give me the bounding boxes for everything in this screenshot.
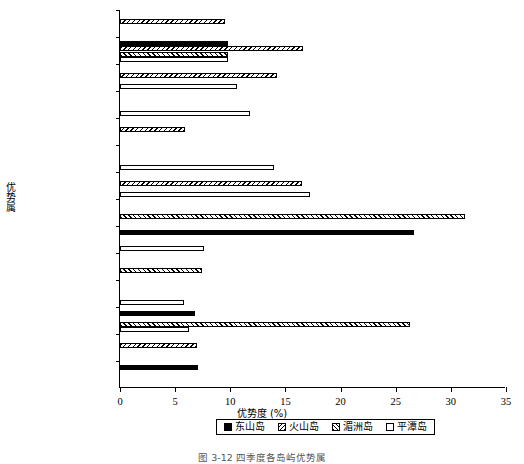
bar-group (120, 91, 505, 118)
x-axis-title: 优势度 (%) (0, 405, 524, 420)
y-tick (116, 145, 120, 146)
y-tick (116, 361, 120, 362)
bar-平潭岛-Rhynchonema (120, 84, 237, 89)
bar-平潭岛-Microlaimus (120, 111, 250, 116)
bar-火山岛-Rhynchonema (120, 73, 277, 78)
legend-item-湄洲岛: 湄洲岛 (332, 422, 373, 432)
y-tick (116, 307, 120, 308)
y-tick (116, 64, 120, 65)
x-tick (506, 387, 507, 392)
bar-group (120, 226, 505, 253)
bar-group (120, 145, 505, 172)
bar-group (120, 280, 505, 307)
bar-湄洲岛-Oncholaimus (120, 322, 410, 327)
bar-平潭岛-Metachromadora (120, 192, 310, 197)
bar-湄洲岛-Tripyloides (120, 268, 202, 273)
bar-平潭岛-Oncholaimus (120, 327, 189, 332)
bar-group (120, 253, 505, 280)
y-tick (116, 334, 120, 335)
bar-group (120, 199, 505, 226)
y-tick (116, 172, 120, 173)
bar-火山岛-Pheronous (120, 343, 197, 348)
legend-swatch-icon (224, 423, 232, 431)
bar-东山岛-Oncholaimus (120, 311, 195, 316)
bar-group (120, 10, 505, 37)
legend-item-平潭岛: 平潭岛 (386, 422, 427, 432)
bar-平潭岛-Theristus (120, 57, 228, 62)
x-tick (285, 387, 286, 392)
x-tick (230, 387, 231, 392)
legend-item-火山岛: 火山岛 (278, 422, 319, 432)
bar-火山岛-Xyala (120, 19, 225, 24)
y-tick (116, 10, 120, 11)
bar-group (120, 37, 505, 64)
legend-item-东山岛: 东山岛 (224, 422, 265, 432)
bar-平潭岛-Lauratonema (120, 246, 204, 251)
legend-label: 湄洲岛 (343, 422, 373, 432)
legend-swatch-icon (386, 423, 394, 431)
legend-label: 火山岛 (289, 422, 319, 432)
chart-legend: 东山岛火山岛湄洲岛平潭岛 (216, 419, 435, 435)
legend-label: 平潭岛 (397, 422, 427, 432)
bar-东山岛-Conilia (120, 365, 198, 370)
bar-group (120, 334, 505, 361)
bar-火山岛-Theristus (120, 46, 303, 51)
bar-group (120, 361, 505, 388)
figure-caption: 图 3-12 四季度各岛屿优势属 (0, 450, 524, 464)
y-tick (116, 91, 120, 92)
bar-火山岛-Metachromadora (120, 181, 302, 186)
y-tick (116, 118, 120, 119)
y-tick (116, 280, 120, 281)
legend-label: 东山岛 (235, 422, 265, 432)
x-tick (451, 387, 452, 392)
x-tick (175, 387, 176, 392)
y-tick (116, 199, 120, 200)
y-tick (116, 226, 120, 227)
bar-湄洲岛-Theristus (120, 52, 228, 57)
legend-swatch-icon (278, 423, 286, 431)
bar-group (120, 64, 505, 91)
bar-group (120, 172, 505, 199)
bar-group (120, 307, 505, 334)
plot-region: 05101520253035 (119, 10, 505, 388)
bar-东山岛-Lauratonema (120, 230, 414, 235)
bar-平潭岛-Metadesmolaimus (120, 165, 274, 170)
bar-火山岛-Monhystera (120, 127, 185, 132)
x-tick (396, 387, 397, 392)
bar-group (120, 118, 505, 145)
bar-东山岛-Theristus (120, 41, 228, 46)
x-tick (120, 387, 121, 392)
y-axis-title: 优势属 (2, 182, 17, 212)
bar-平潭岛-Viscosia (120, 300, 184, 305)
legend-swatch-icon (332, 423, 340, 431)
bar-湄洲岛-Neochromadora (120, 214, 465, 219)
y-tick (116, 253, 120, 254)
x-tick (341, 387, 342, 392)
y-tick (116, 37, 120, 38)
